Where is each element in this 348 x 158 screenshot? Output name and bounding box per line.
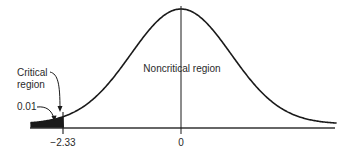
normal-distribution-chart: −2.33 0 Noncritical region Critical regi… xyxy=(0,0,348,158)
critical-region-label-line1: Critical xyxy=(17,67,48,78)
tick-label-zero: 0 xyxy=(178,137,184,148)
alpha-arrow xyxy=(37,107,54,119)
critical-arrowhead-icon xyxy=(58,106,63,112)
noncritical-region-label: Noncritical region xyxy=(143,63,220,74)
alpha-label: 0.01 xyxy=(17,101,37,112)
tick-label-critical: −2.33 xyxy=(50,137,76,148)
critical-region-arrow xyxy=(50,72,60,109)
critical-region-label-line2: region xyxy=(17,79,45,90)
